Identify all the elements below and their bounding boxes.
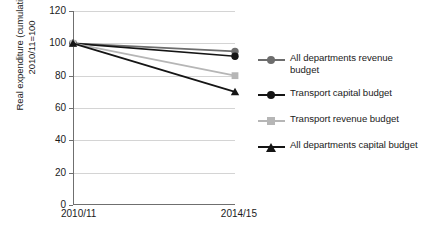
legend-marker-triangle-icon [266, 143, 276, 152]
legend-item-1[interactable]: Transport capital budget [258, 87, 423, 101]
legend-swatch-icon [258, 88, 285, 101]
legend-marker-square-icon [267, 117, 275, 125]
y-axis-tick-label: 80 [55, 71, 66, 81]
x-axis-label-end: 2014/15 [221, 209, 257, 219]
legend-label: All departments capital budget [285, 139, 418, 151]
legend-item-2[interactable]: Transport revenue budget [258, 113, 423, 127]
chart-legend: All departments revenue budgetTransport … [258, 52, 423, 165]
legend-swatch-icon [258, 53, 285, 66]
y-axis-tick [69, 205, 73, 206]
line-chart: Real expenditure (cumulative), 2010/11=1… [0, 0, 425, 236]
data-point-marker [232, 72, 239, 79]
legend-marker-circle-icon [267, 56, 275, 64]
y-axis-title: Real expenditure (cumulative), 2010/11=1… [14, 0, 37, 133]
legend-label: Transport capital budget [285, 87, 392, 99]
legend-item-0[interactable]: All departments revenue budget [258, 52, 423, 75]
series-lines [73, 11, 235, 205]
legend-label: All departments revenue budget [285, 52, 423, 75]
legend-swatch-icon [258, 140, 285, 153]
y-axis-tick-label: 40 [55, 135, 66, 145]
legend-swatch-icon [258, 114, 285, 127]
legend-label: Transport revenue budget [285, 113, 399, 125]
y-axis-tick-label: 120 [49, 6, 66, 16]
data-point-marker [231, 53, 238, 60]
y-axis-tick-label: 20 [55, 168, 66, 178]
y-axis-tick-label: 100 [49, 38, 66, 48]
legend-marker-circle-icon [267, 91, 275, 99]
plot-area: 020406080100120 2010/11 2014/15 [73, 11, 235, 205]
y-axis-tick-label: 60 [55, 103, 66, 113]
x-axis-label-start: 2010/11 [61, 209, 96, 219]
legend-item-3[interactable]: All departments capital budget [258, 139, 423, 153]
